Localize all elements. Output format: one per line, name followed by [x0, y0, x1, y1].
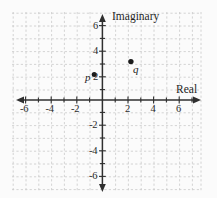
x-tick-label--6: -6 — [20, 104, 28, 115]
y-tick-label-6: 6 — [93, 21, 98, 32]
point-p-label: p — [85, 72, 91, 83]
y-tick-label-4: 4 — [93, 46, 98, 57]
x-tick-label-6: 6 — [176, 104, 181, 115]
x-tick-label--2: -2 — [71, 104, 79, 115]
grid-lines-horizontal — [12, 13, 201, 189]
y-tick-label--6: -6 — [89, 171, 97, 182]
grid-lines-vertical — [13, 12, 201, 191]
complex-plane-canvas — [0, 0, 217, 198]
real-axis — [16, 97, 201, 104]
x-tick-label-2: 2 — [125, 104, 130, 115]
point-q-label: q — [133, 64, 139, 75]
x-tick-label--4: -4 — [46, 104, 54, 115]
real-axis-title: Real — [176, 84, 197, 96]
y-tick-label-2: 2 — [93, 72, 98, 83]
imaginary-axis — [99, 14, 106, 192]
complex-plane-figure: Imaginary Real -6 -4 -2 2 4 6 6 4 2 -2 -… — [0, 0, 217, 198]
y-tick-label--2: -2 — [89, 120, 97, 131]
y-tick-label--4: -4 — [89, 146, 97, 157]
imaginary-axis-title: Imaginary — [112, 11, 159, 23]
x-tick-label-4: 4 — [151, 104, 156, 115]
